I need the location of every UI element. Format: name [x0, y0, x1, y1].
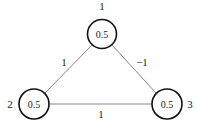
node-3: 0.5 3 — [152, 89, 193, 119]
node-2-label: 2 — [7, 98, 13, 110]
graph-diagram: 1 −1 1 0.5 1 0.5 2 0.5 3 — [0, 0, 197, 134]
edge-1-3 — [112, 45, 156, 93]
node-3-label: 3 — [187, 98, 193, 110]
node-1-value: 0.5 — [96, 29, 109, 40]
node-3-value: 0.5 — [161, 99, 174, 110]
edge-1-2 — [45, 45, 92, 93]
edge-label-1-2: 1 — [61, 56, 67, 68]
node-1: 0.5 1 — [88, 0, 117, 49]
node-2: 0.5 2 — [7, 89, 49, 119]
node-2-value: 0.5 — [28, 99, 41, 110]
edge-label-1-3: −1 — [136, 56, 148, 68]
edge-label-2-3: 1 — [98, 108, 104, 120]
node-1-label: 1 — [99, 0, 105, 12]
